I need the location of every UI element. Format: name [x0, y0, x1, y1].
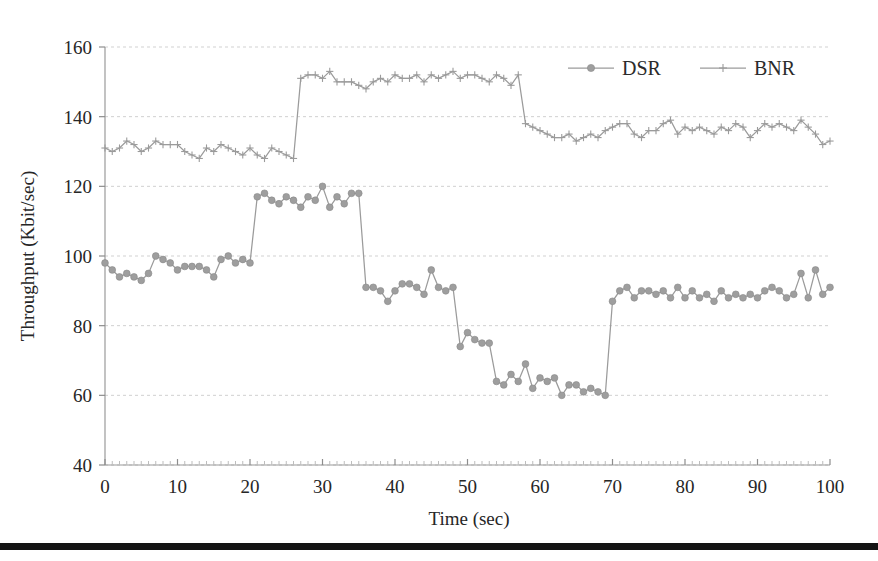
- marker-dsr-90: [754, 294, 761, 301]
- marker-dsr-3: [123, 270, 130, 277]
- y-tick-label-140: 140: [64, 107, 93, 128]
- marker-dsr-0: [102, 260, 109, 267]
- gridlines-group: [105, 47, 830, 465]
- marker-dsr-34: [348, 190, 355, 197]
- marker-bnr-88: [739, 124, 746, 131]
- marker-dsr-85: [718, 287, 725, 294]
- x-tick-label-60: 60: [531, 476, 550, 497]
- marker-bnr-25: [283, 151, 290, 158]
- marker-dsr-42: [406, 280, 413, 287]
- marker-dsr-19: [239, 256, 246, 263]
- marker-dsr-37: [370, 284, 377, 291]
- marker-dsr-31: [326, 204, 333, 211]
- marker-dsr-61: [544, 378, 551, 385]
- series-line-bnr: [105, 71, 830, 158]
- marker-dsr-21: [254, 193, 261, 200]
- marker-dsr-26: [290, 197, 297, 204]
- marker-dsr-8: [160, 256, 167, 263]
- marker-dsr-11: [181, 263, 188, 270]
- marker-dsr-13: [196, 263, 203, 270]
- chart-figure: 406080100120140160 010203040506070809010…: [0, 0, 878, 561]
- y-tick-label-60: 60: [73, 385, 92, 406]
- marker-dsr-53: [486, 340, 493, 347]
- marker-bnr-81: [689, 127, 696, 134]
- marker-bnr-14: [203, 144, 210, 151]
- marker-bnr-46: [435, 75, 442, 82]
- marker-bnr-47: [442, 71, 449, 78]
- marker-dsr-43: [413, 284, 420, 291]
- x-tick-label-70: 70: [603, 476, 622, 497]
- y-tick-labels-group: 406080100120140160: [64, 37, 93, 476]
- marker-dsr-81: [689, 287, 696, 294]
- marker-dsr-35: [355, 190, 362, 197]
- marker-bnr-70: [609, 124, 616, 131]
- marker-bnr-61: [544, 130, 551, 137]
- legend-entry-bnr[interactable]: BNR: [700, 57, 796, 79]
- marker-bnr-1: [109, 148, 116, 155]
- marker-dsr-98: [812, 267, 819, 274]
- marker-dsr-40: [392, 287, 399, 294]
- marker-dsr-69: [602, 392, 609, 399]
- marker-dsr-73: [631, 294, 638, 301]
- marker-bnr-8: [159, 141, 166, 148]
- marker-bnr-41: [399, 75, 406, 82]
- legend-entry-dsr[interactable]: DSR: [568, 57, 662, 79]
- marker-bnr-93: [776, 120, 783, 127]
- marker-dsr-78: [667, 294, 674, 301]
- marker-bnr-35: [355, 82, 362, 89]
- marker-dsr-48: [450, 284, 457, 291]
- marker-dsr-50: [464, 329, 471, 336]
- marker-bnr-42: [406, 75, 413, 82]
- marker-bnr-57: [515, 71, 522, 78]
- marker-dsr-6: [145, 270, 152, 277]
- marker-dsr-46: [435, 284, 442, 291]
- marker-bnr-63: [558, 134, 565, 141]
- marker-bnr-24: [275, 148, 282, 155]
- marker-dsr-60: [537, 375, 544, 382]
- marker-dsr-62: [551, 375, 558, 382]
- marker-bnr-34: [348, 78, 355, 85]
- marker-dsr-82: [696, 294, 703, 301]
- marker-bnr-78: [667, 117, 674, 124]
- marker-dsr-27: [297, 204, 304, 211]
- marker-bnr-23: [268, 144, 275, 151]
- marker-dsr-28: [305, 193, 312, 200]
- marker-dsr-51: [471, 336, 478, 343]
- marker-bnr-59: [529, 124, 536, 131]
- marker-dsr-36: [363, 284, 370, 291]
- x-tick-labels-group: 0102030405060708090100: [100, 476, 844, 497]
- marker-bnr-62: [551, 134, 558, 141]
- marker-dsr-94: [783, 294, 790, 301]
- y-tick-label-160: 160: [64, 37, 93, 58]
- marker-bnr-22: [261, 155, 268, 162]
- marker-dsr-12: [189, 263, 196, 270]
- marker-dsr-22: [261, 190, 268, 197]
- marker-dsr-30: [319, 183, 326, 190]
- marker-dsr-65: [573, 381, 580, 388]
- marker-dsr-4: [131, 274, 138, 281]
- y-tick-label-100: 100: [64, 246, 93, 267]
- marker-dsr-57: [515, 378, 522, 385]
- marker-dsr-67: [587, 385, 594, 392]
- y-tick-label-80: 80: [73, 316, 92, 337]
- x-tick-label-50: 50: [458, 476, 477, 497]
- marker-dsr-10: [174, 267, 181, 274]
- marker-dsr-68: [595, 388, 602, 395]
- marker-dsr-54: [493, 378, 500, 385]
- marker-dsr-45: [428, 267, 435, 274]
- marker-dsr-100: [827, 284, 834, 291]
- marker-dsr-79: [674, 284, 681, 291]
- legend-label-dsr: DSR: [622, 57, 662, 79]
- marker-bnr-67: [587, 130, 594, 137]
- marker-dsr-63: [558, 392, 565, 399]
- marker-dsr-39: [384, 298, 391, 305]
- marker-dsr-93: [776, 287, 783, 294]
- marker-dsr-86: [725, 294, 732, 301]
- marker-bnr-32: [333, 78, 340, 85]
- marker-dsr-77: [660, 287, 667, 294]
- marker-dsr-2: [116, 274, 123, 281]
- marker-dsr-56: [508, 371, 515, 378]
- marker-bnr-73: [631, 130, 638, 137]
- marker-dsr-33: [341, 200, 348, 207]
- marker-dsr-1: [109, 267, 116, 274]
